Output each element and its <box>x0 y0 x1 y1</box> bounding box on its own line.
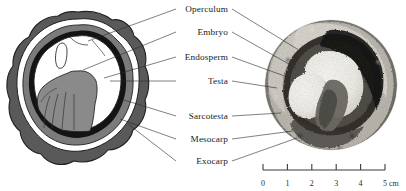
label-mesocarp: Mesocarp <box>191 134 229 144</box>
label-embryo: Embryo <box>198 27 229 37</box>
seed-anatomy-figure: OperculumEmbryoEndospermTestaSarcotestaM… <box>0 0 406 191</box>
scale-tick-label-4: 4 <box>359 179 363 188</box>
label-sarcotesta: Sarcotesta <box>189 111 228 121</box>
label-operculum: Operculum <box>185 4 228 14</box>
scale-tick-label-5: 5 <box>383 179 387 188</box>
scale-tick-label-3: 3 <box>334 179 338 188</box>
scale-tick-label-0: 0 <box>261 179 265 188</box>
photographic-seed-cross-section <box>265 20 397 150</box>
scale-bar-unit: cm <box>389 179 400 188</box>
operculum-structure <box>56 43 68 68</box>
scale-tick-label-2: 2 <box>310 179 314 188</box>
scale-tick-label-1: 1 <box>285 179 289 188</box>
label-endosperm: Endosperm <box>185 52 228 62</box>
figure-canvas: OperculumEmbryoEndospermTestaSarcotestaM… <box>0 0 406 191</box>
label-testa: Testa <box>208 76 228 86</box>
label-exocarp: Exocarp <box>196 156 228 166</box>
